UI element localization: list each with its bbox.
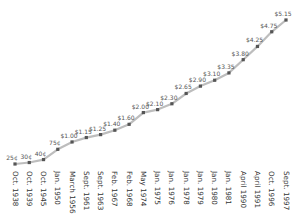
x-axis-label: Jan. 1975 [153, 170, 162, 205]
x-axis-labels: Oct. 1938Oct. 1939Oct. 1945Jan. 1950Marc… [11, 170, 291, 214]
x-axis-label: Sept. 1997 [282, 171, 291, 210]
data-label: $3.10 [203, 70, 220, 77]
data-point-marker [242, 58, 245, 61]
data-point-marker [170, 102, 173, 105]
data-point-marker [213, 79, 216, 82]
data-point-marker [113, 129, 116, 132]
x-axis-label: April 1991 [253, 171, 262, 208]
x-axis-label: Oct. 1945 [39, 171, 48, 206]
data-point-marker [156, 108, 159, 111]
data-label: $3.80 [232, 50, 249, 57]
data-point-marker [70, 140, 73, 143]
x-axis-label: Jan. 1978 [182, 170, 191, 205]
data-point-marker [13, 162, 16, 165]
x-axis-label: Jan. 1979 [196, 170, 205, 205]
line-chart: 25¢30¢40¢75¢$1.00$1.15$1.25$1.40$1.60$2.… [0, 0, 298, 223]
data-point-marker [99, 133, 102, 136]
data-label: $4.25 [246, 36, 263, 43]
data-label: 25¢ [6, 154, 18, 161]
x-axis-label: Oct. 1938 [11, 171, 20, 207]
x-axis-label: Oct. 1939 [25, 171, 34, 207]
data-labels: 25¢30¢40¢75¢$1.00$1.15$1.25$1.40$1.60$2.… [6, 10, 291, 161]
x-axis-label: Sept. 1961 [82, 171, 91, 210]
data-point-marker [28, 161, 31, 164]
data-point-marker [142, 111, 145, 114]
data-label: $2.65 [175, 83, 192, 90]
x-axis-label: March 1956 [68, 171, 77, 214]
data-point-marker [128, 123, 131, 126]
data-point-marker [199, 85, 202, 88]
data-label: $3.35 [217, 63, 234, 70]
data-point-marker [85, 136, 88, 139]
x-axis-label: Feb. 1967 [110, 171, 119, 207]
data-point-marker [227, 71, 230, 74]
data-label: 40¢ [35, 150, 47, 157]
data-point-marker [270, 30, 273, 33]
x-axis-label: May 1974 [139, 171, 148, 207]
data-point-marker [42, 158, 45, 161]
data-point-marker [284, 18, 287, 21]
data-label: $2.30 [160, 94, 177, 101]
x-axis-label: Jan. 1980 [210, 170, 219, 205]
x-axis-label: April 1990 [239, 171, 248, 208]
x-axis-label: Jan. 1981 [224, 170, 233, 205]
x-axis-label: Jan. 1976 [167, 170, 176, 205]
data-label: $5.15 [274, 10, 291, 17]
data-label: $4.75 [260, 22, 277, 29]
data-point-marker [56, 148, 59, 151]
x-axis-label: Oct. 1996 [267, 171, 276, 207]
data-label: 75¢ [49, 139, 61, 146]
x-axis-label: Feb. 1968 [125, 171, 134, 207]
data-point-marker [185, 92, 188, 95]
x-axis-label: Jan. 1950 [53, 170, 62, 205]
x-axis-label: Sept. 1963 [96, 171, 105, 210]
data-label: 30¢ [21, 153, 33, 160]
data-label: $1.60 [118, 114, 135, 121]
data-point-marker [256, 45, 259, 48]
